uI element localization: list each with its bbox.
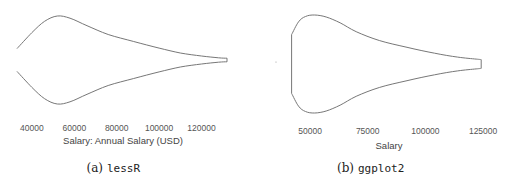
x-tick-labels-lessR: 400006000080000100000120000 — [20, 123, 216, 133]
x-tick-label: 75000 — [356, 126, 380, 136]
x-tick-label: 80000 — [105, 123, 129, 133]
violin-shape-ggplot2 — [292, 15, 482, 113]
violin-shape-lessR — [17, 16, 227, 104]
x-tick-label: 120000 — [187, 123, 216, 133]
x-tick-labels-ggplot2: 5000075000100000125000 — [298, 126, 497, 136]
x-tick-label: 100000 — [411, 126, 440, 136]
caption-name-lessR: lessR — [107, 162, 140, 175]
figure: 400006000080000100000120000 Salary: Annu… — [0, 0, 519, 182]
caption-label-b: (b) — [337, 161, 354, 175]
x-tick-label: 60000 — [62, 123, 86, 133]
x-tick-label: 40000 — [20, 123, 44, 133]
panel-lessR: 400006000080000100000120000 Salary: Annu… — [17, 16, 227, 175]
caption-name-ggplot2: ggplot2 — [358, 162, 404, 175]
panel-ggplot2: 5000075000100000125000 Salary (b) ggplot… — [275, 15, 497, 175]
x-tick-label: 50000 — [298, 126, 322, 136]
caption-label-a: (a) — [86, 161, 103, 175]
x-tick-label: 125000 — [469, 126, 498, 136]
x-tick-label: 100000 — [145, 123, 174, 133]
x-axis-label-lessR: Salary: Annual Salary (USD) — [63, 135, 183, 146]
x-axis-label-ggplot2: Salary — [376, 140, 403, 151]
axis-tick-mark — [275, 61, 276, 62]
